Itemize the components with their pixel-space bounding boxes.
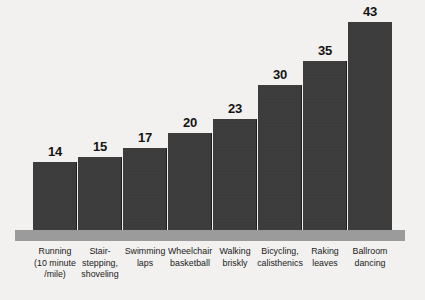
plot-area: 14 15 17 20 23 30 35 43 — [33, 10, 388, 230]
bar-value-label: 43 — [342, 5, 398, 19]
category-label-line: Ballroom — [341, 245, 399, 257]
baseline-band — [15, 230, 405, 241]
bar-rect — [348, 22, 392, 230]
bar-column[interactable]: 15 — [78, 10, 122, 230]
bar-rect — [78, 157, 122, 230]
bar-value-label: 23 — [207, 102, 263, 116]
bar-column[interactable]: 20 — [168, 10, 212, 230]
bar-column[interactable]: 14 — [33, 10, 77, 230]
bar-rect — [33, 162, 77, 230]
bar-column[interactable]: 35 — [303, 10, 347, 230]
bar-chart: 14 15 17 20 23 30 35 43 — [0, 0, 425, 300]
bar-value-label: 35 — [297, 44, 353, 58]
bar-column[interactable]: 30 — [258, 10, 302, 230]
category-axis: Running(10 minute/mile) Stair-stepping,s… — [33, 245, 388, 295]
bar-value-label: 20 — [162, 116, 218, 130]
bar-column[interactable]: 43 — [348, 10, 392, 230]
bar-rect — [123, 148, 167, 230]
bar-rect — [303, 61, 347, 230]
bar-rect — [258, 85, 302, 230]
bar-value-label: 17 — [117, 131, 173, 145]
bar-column[interactable]: 23 — [213, 10, 257, 230]
category-label-line: dancing — [341, 257, 399, 269]
bar-column[interactable]: 17 — [123, 10, 167, 230]
bar-rect — [168, 133, 212, 230]
bar-rect — [213, 119, 257, 230]
category-label-line: shoveling — [71, 268, 129, 280]
category-label: Ballroomdancing — [341, 245, 399, 268]
bar-value-label: 30 — [252, 68, 308, 82]
